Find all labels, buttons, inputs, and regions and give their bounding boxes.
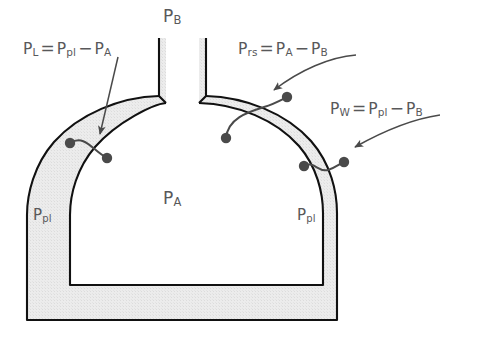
- probe-dot-respiratory-system-a: [221, 133, 231, 143]
- eq2-equals: =: [258, 38, 276, 58]
- equation-respiratory-system-pressure: Prs=PA−PB: [238, 40, 328, 58]
- eq3-term1-base: P: [330, 100, 340, 118]
- probe-dot-chest-wall-b: [339, 157, 349, 167]
- probe-dot-respiratory-system-b: [282, 92, 292, 102]
- pb-sub: B: [173, 13, 181, 27]
- pa-base: P: [163, 188, 173, 208]
- eq2-term2-sub: A: [285, 46, 292, 58]
- eq1-term3-base: P: [94, 40, 104, 58]
- eq1-minus: −: [76, 38, 94, 58]
- eq1-term2-sub: pl: [66, 46, 76, 58]
- leader-arrow-chest-wall: [355, 115, 440, 147]
- eq3-minus: −: [388, 98, 406, 118]
- eq3-term3-sub: B: [415, 106, 422, 118]
- equation-chest-wall-pressure: PW=Ppl−PB: [330, 100, 423, 118]
- label-pleural-pressure-left: Ppl: [33, 207, 52, 224]
- label-barometric-pressure: PB: [163, 8, 181, 27]
- eq1-equals: =: [39, 38, 57, 58]
- eq1-term1-sub: L: [33, 46, 39, 58]
- probe-dot-transpulmonary-a: [65, 138, 75, 148]
- eq2-term1-sub: rs: [248, 46, 258, 58]
- eq1-term3-sub: A: [104, 46, 111, 58]
- pb-base: P: [163, 6, 173, 26]
- label-alveolar-pressure: PA: [163, 190, 181, 209]
- ppl-left-base: P: [33, 206, 42, 224]
- figure-canvas: PL=Ppl−PA Prs=PA−PB PW=Ppl−PB PB PA Ppl …: [0, 0, 481, 339]
- eq2-term3-sub: B: [320, 46, 327, 58]
- eq2-minus: −: [293, 38, 311, 58]
- eq3-term1-sub: W: [340, 106, 350, 118]
- probe-dot-transpulmonary-b: [102, 153, 112, 163]
- pa-sub: A: [173, 195, 181, 209]
- eq3-equals: =: [350, 98, 368, 118]
- leader-arrow-respiratory-system: [274, 55, 356, 90]
- ppl-left-sub: pl: [42, 213, 51, 224]
- equation-transpulmonary-pressure: PL=Ppl−PA: [23, 40, 111, 58]
- eq3-term2-base: P: [368, 100, 378, 118]
- eq1-term1-base: P: [23, 40, 33, 58]
- probe-dot-chest-wall-a: [299, 161, 309, 171]
- ppl-right-base: P: [297, 206, 306, 224]
- eq3-term2-sub: pl: [378, 106, 388, 118]
- eq1-term2-base: P: [57, 40, 67, 58]
- eq2-term1-base: P: [238, 40, 248, 58]
- label-pleural-pressure-right: Ppl: [297, 207, 316, 224]
- eq2-term2-base: P: [276, 40, 286, 58]
- ppl-right-sub: pl: [306, 213, 315, 224]
